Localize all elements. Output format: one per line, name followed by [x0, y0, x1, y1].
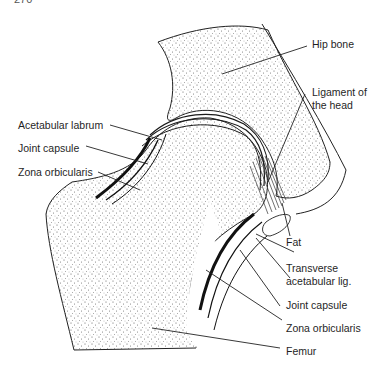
hip-joint-illustration: [0, 0, 384, 375]
transverse-acetabular-ligament: [263, 214, 291, 236]
label-transverse-1: Transverse: [286, 262, 338, 274]
label-ligament-of-head-2: the head: [312, 99, 353, 111]
label-zona-orbicularis-right: Zona orbicularis: [286, 322, 361, 334]
label-hip-bone: Hip bone: [312, 38, 354, 50]
label-femur: Femur: [286, 345, 316, 357]
label-zona-orbicularis-left: Zona orbicularis: [18, 166, 93, 178]
label-joint-capsule-left: Joint capsule: [18, 142, 79, 154]
label-ligament-of-head-1: Ligament of: [312, 86, 367, 98]
label-acetabular-labrum: Acetabular labrum: [18, 119, 103, 131]
label-transverse-2: acetabular lig.: [286, 275, 351, 287]
label-joint-capsule-right: Joint capsule: [286, 299, 347, 311]
label-fat: Fat: [286, 236, 301, 248]
